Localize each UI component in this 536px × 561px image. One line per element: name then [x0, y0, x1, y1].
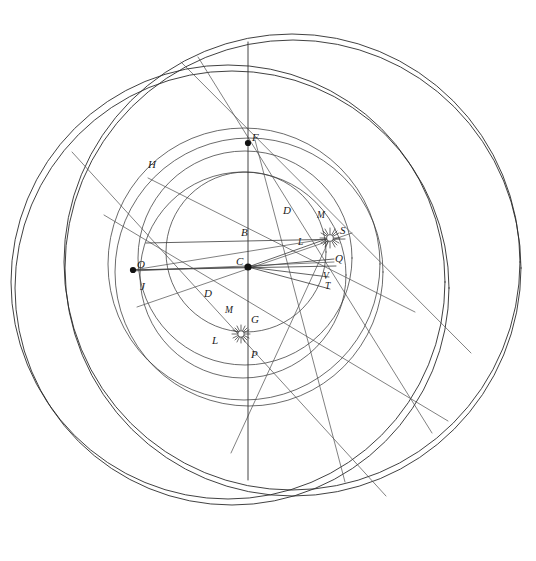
circle-deferent-b	[115, 138, 383, 406]
point-label-M-lower: M	[225, 306, 233, 316]
ray-long-2	[104, 215, 448, 421]
ray-long-5	[137, 233, 352, 307]
diagram-canvas: F H D M S B L Q C O V J T D M G L P	[0, 0, 536, 561]
marker-burst-S	[320, 228, 340, 248]
point-label-B: B	[241, 227, 248, 238]
circle-outer-great-a	[64, 34, 520, 490]
point-label-T: T	[325, 282, 330, 292]
point-label-D-lower: D	[204, 288, 212, 299]
ray-long-6	[148, 178, 415, 312]
eccentric-circles	[11, 65, 449, 505]
circle-eccentric-b	[15, 71, 449, 505]
marker-point-C	[244, 263, 251, 270]
point-label-O: O	[137, 259, 145, 270]
ray-long-1	[72, 152, 386, 496]
circle-eccentric-a	[11, 65, 445, 499]
point-label-M-upper: M	[317, 211, 325, 221]
ray-long-8	[231, 238, 330, 453]
point-label-Q: Q	[335, 253, 343, 264]
point-label-D-upper: D	[283, 205, 291, 216]
marker-point-F	[245, 140, 251, 146]
point-label-J: J	[140, 281, 145, 292]
ray-long-3	[198, 57, 432, 433]
point-label-S: S	[340, 225, 346, 236]
ray-long-7	[255, 140, 345, 482]
outer-great-circles	[64, 34, 521, 496]
point-label-C: C	[236, 256, 243, 267]
circle-middle-a	[138, 151, 352, 365]
geometry-figure	[0, 0, 536, 561]
point-label-L-lower: L	[212, 335, 218, 346]
marker-point-O	[130, 267, 136, 273]
ray-C-to-Q	[248, 259, 334, 267]
point-label-L-upper: L	[298, 238, 303, 248]
point-label-F: F	[252, 132, 259, 143]
point-label-G: G	[251, 314, 259, 325]
point-label-P: P	[251, 349, 258, 360]
point-label-H: H	[148, 159, 156, 170]
marker-burst-G	[232, 325, 250, 343]
construction-rays	[72, 57, 471, 496]
chord-through-B	[146, 239, 345, 243]
